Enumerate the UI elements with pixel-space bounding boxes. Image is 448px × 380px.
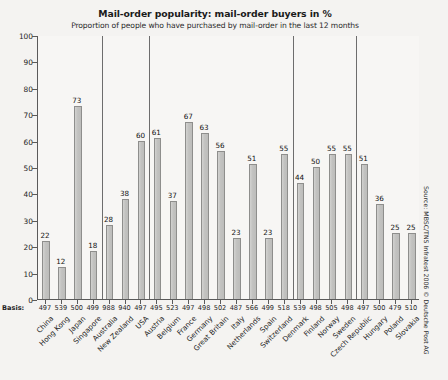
bar-value-singapore: 18 <box>88 241 97 250</box>
y-axis-tick-label: 10 <box>7 269 33 278</box>
bar-value-hong-kong: 12 <box>56 257 65 266</box>
bar-belgium <box>170 201 178 299</box>
plot-area <box>37 36 419 300</box>
basis-value-singapore: 499 <box>86 304 99 312</box>
bar-italy <box>233 238 241 299</box>
basis-value-sweden: 498 <box>341 304 354 312</box>
y-axis-tick-mark <box>32 89 37 90</box>
bar-slovakia <box>408 233 416 299</box>
y-axis-tick-mark <box>32 274 37 275</box>
basis-value-denmark: 539 <box>293 304 306 312</box>
y-axis-tick-label: 90 <box>7 58 33 67</box>
source-note: Source: MBSC/TNS Infratest 2006 © Deutsc… <box>423 186 430 354</box>
y-axis-tick-label: 50 <box>7 164 33 173</box>
bar-new-zealand <box>122 199 130 299</box>
basis-value-switzerland: 518 <box>277 304 290 312</box>
bar-spain <box>265 238 273 299</box>
y-axis-tick-mark <box>32 247 37 248</box>
basis-value-spain: 499 <box>261 304 274 312</box>
y-axis-tick-mark <box>32 221 37 222</box>
basis-value-poland: 479 <box>389 304 402 312</box>
bar-poland <box>392 233 400 299</box>
group-separator <box>102 36 103 299</box>
bar-australia <box>106 225 114 299</box>
basis-value-netherlands: 566 <box>246 304 259 312</box>
y-axis-tick-mark <box>32 62 37 63</box>
bar-value-sweden: 55 <box>343 144 352 153</box>
bar-value-austria: 61 <box>152 128 161 137</box>
bar-value-poland: 25 <box>391 223 400 232</box>
bar-france <box>185 122 193 299</box>
bar-hungary <box>376 204 384 299</box>
basis-value-austria: 495 <box>150 304 163 312</box>
y-axis-tick-label: 80 <box>7 84 33 93</box>
y-axis-tick-label: 100 <box>7 32 33 41</box>
bar-japan <box>74 106 82 299</box>
bar-value-belgium: 37 <box>168 191 177 200</box>
y-axis-tick-label: 60 <box>7 137 33 146</box>
bar-value-usa: 60 <box>136 131 145 140</box>
bar-austria <box>154 138 162 299</box>
bar-value-czech-republic: 51 <box>359 154 368 163</box>
basis-value-france: 497 <box>182 304 195 312</box>
bar-value-germany: 63 <box>200 123 209 132</box>
y-axis-tick-mark <box>32 194 37 195</box>
bar-value-france: 67 <box>184 112 193 121</box>
group-separator <box>149 36 150 299</box>
group-separator <box>356 36 357 299</box>
basis-value-hong-kong: 539 <box>55 304 68 312</box>
basis-value-japan: 500 <box>70 304 83 312</box>
bar-value-new-zealand: 38 <box>120 189 129 198</box>
y-axis-tick-label: 40 <box>7 190 33 199</box>
y-axis-tick-mark <box>32 115 37 116</box>
bar-value-hungary: 36 <box>375 194 384 203</box>
chart-screenshot: Mail-order popularity: mail-order buyers… <box>0 0 448 380</box>
y-axis-tick-mark <box>32 142 37 143</box>
basis-value-hungary: 500 <box>373 304 386 312</box>
y-axis-tick-mark <box>32 300 37 301</box>
basis-value-great-britain: 502 <box>214 304 227 312</box>
bar-usa <box>138 141 146 299</box>
bar-denmark <box>297 183 305 299</box>
y-axis-tick-mark <box>32 168 37 169</box>
bar-switzerland <box>281 154 289 299</box>
basis-value-australia: 988 <box>102 304 115 312</box>
basis-value-belgium: 523 <box>166 304 179 312</box>
chart-subtitle: Proportion of people who have purchased … <box>0 21 430 30</box>
bar-finland <box>313 167 321 299</box>
bar-value-denmark: 44 <box>295 173 304 182</box>
basis-value-usa: 497 <box>134 304 147 312</box>
bar-value-slovakia: 25 <box>406 223 415 232</box>
bar-singapore <box>90 251 98 299</box>
bar-norway <box>329 154 337 299</box>
bar-value-italy: 23 <box>231 228 240 237</box>
bar-netherlands <box>249 164 257 299</box>
basis-value-czech-republic: 497 <box>357 304 370 312</box>
bar-germany <box>201 133 209 299</box>
basis-value-germany: 498 <box>198 304 211 312</box>
y-axis-tick-mark <box>32 36 37 37</box>
bar-value-china: 22 <box>40 231 49 240</box>
bar-great-britain <box>217 151 225 299</box>
group-separator <box>293 36 294 299</box>
y-axis-tick-label: 30 <box>7 216 33 225</box>
basis-row-label: Basis: <box>2 304 24 312</box>
basis-value-finland: 498 <box>309 304 322 312</box>
basis-value-new-zealand: 940 <box>118 304 131 312</box>
bar-value-great-britain: 56 <box>215 141 224 150</box>
bar-czech-republic <box>361 164 369 299</box>
bar-value-netherlands: 51 <box>247 154 256 163</box>
bar-value-japan: 73 <box>72 96 81 105</box>
bar-value-switzerland: 55 <box>279 144 288 153</box>
bar-value-norway: 55 <box>327 144 336 153</box>
bar-value-finland: 50 <box>311 157 320 166</box>
basis-value-norway: 505 <box>325 304 338 312</box>
y-axis-tick-label: 70 <box>7 111 33 120</box>
basis-value-slovakia: 510 <box>405 304 418 312</box>
chart-title: Mail-order popularity: mail-order buyers… <box>0 8 430 19</box>
bar-sweden <box>345 154 353 299</box>
basis-value-china: 497 <box>39 304 52 312</box>
bar-hong-kong <box>58 267 66 299</box>
bar-value-spain: 23 <box>263 228 272 237</box>
basis-value-italy: 487 <box>230 304 243 312</box>
